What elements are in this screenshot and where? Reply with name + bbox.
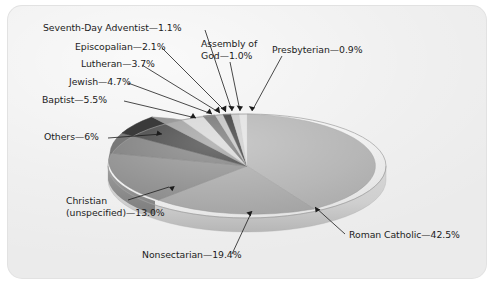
label-seventh-day-adventist: Seventh-Day Adventist—1.1%: [43, 22, 182, 34]
label-presbyterian: Presbyterian—0.9%: [272, 44, 362, 56]
label-assembly-of-god-line1: Assembly of: [201, 38, 257, 50]
label-jewish: Jewish—4.7%: [69, 76, 131, 88]
label-baptist: Baptist—5.5%: [42, 94, 107, 106]
label-nonsectarian: Nonsectarian—19.4%: [142, 249, 241, 261]
label-christian-unspecified-line1: Christian: [66, 195, 107, 207]
pie-chart-figure: Seventh-Day Adventist—1.1% Episcopalian—…: [0, 0, 494, 287]
leader-line-jewish: [128, 83, 212, 114]
leader-line-presbyterian: [252, 56, 282, 111]
leader-line-assembly-of-god: [230, 62, 240, 111]
label-assembly-of-god-line2: God—1.0%: [201, 50, 252, 62]
label-christian-unspecified-line2: (unspecified)—13.0%: [66, 207, 165, 219]
label-roman-catholic: Roman Catholic—42.5%: [349, 229, 460, 241]
leader-line-lutheran: [142, 65, 220, 113]
label-episcopalian: Episcopalian—2.1%: [75, 41, 165, 53]
pie-top-face: [108, 114, 386, 218]
label-lutheran: Lutheran—3.7%: [81, 58, 155, 70]
leader-line-baptist: [124, 101, 196, 118]
label-others: Others—6%: [44, 131, 99, 143]
